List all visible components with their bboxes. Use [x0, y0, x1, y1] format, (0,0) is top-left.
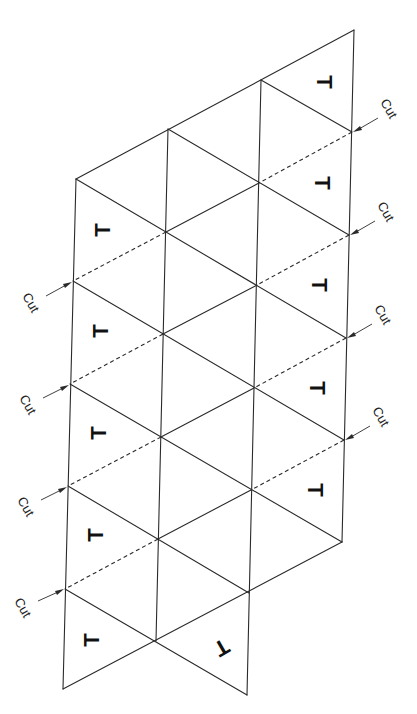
arrow-icon [353, 126, 362, 132]
glue-tab-mark: T [86, 426, 111, 440]
glue-tab-mark-bottom: T [209, 633, 234, 662]
cut-marker-right-1: Cut [353, 96, 401, 132]
glue-tab-mark: T [303, 483, 328, 497]
right-cut-markers: Cut Cut Cut Cut [345, 96, 401, 440]
cut-label: Cut [19, 290, 42, 315]
column-b-line [156, 129, 168, 641]
cut-label: Cut [11, 595, 34, 620]
right-tab-marks: T T T T T [303, 75, 337, 497]
cut-marker-left-2: Cut [16, 385, 69, 417]
diag-mid-4 [158, 490, 251, 539]
diag-mid-2 [163, 285, 257, 334]
cut-line-right-1 [259, 132, 352, 183]
cut-label: Cut [369, 404, 392, 429]
cut-line-right-2 [257, 235, 349, 285]
arrow-icon [347, 332, 356, 338]
left-tab-marks: T T T T T [79, 223, 115, 647]
glue-tab-mark: T [312, 75, 337, 89]
glue-tab-mark: T [90, 223, 115, 237]
cut-line-right-4 [251, 440, 344, 490]
cut-line-left-2 [70, 334, 163, 384]
solid-edges [63, 30, 354, 695]
cut-line-left-4 [65, 539, 158, 589]
glue-tab-mark: T [88, 324, 113, 338]
cut-marker-right-4: Cut [345, 404, 393, 440]
cut-marker-right-2: Cut [350, 199, 398, 235]
cut-label: Cut [371, 302, 394, 327]
arrow-icon [345, 434, 354, 440]
bottom-edge [63, 542, 342, 689]
glue-tab-mark: T [83, 528, 108, 542]
column-d-line [342, 30, 354, 542]
arrow-icon [58, 487, 67, 493]
arrow-icon [350, 229, 359, 235]
cut-label: Cut [14, 494, 37, 519]
diag-mid-3 [161, 388, 254, 437]
cut-marker-left-3: Cut [14, 487, 67, 519]
cut-marker-left-1: Cut [19, 282, 72, 315]
glue-tab-mark: T [310, 176, 335, 190]
left-cut-markers: Cut Cut Cut Cut [11, 282, 72, 620]
cut-marker-right-3: Cut [347, 302, 395, 338]
cut-label: Cut [374, 199, 397, 224]
arrow-icon [60, 385, 69, 391]
arrow-icon [55, 589, 64, 595]
cut-line-left-1 [73, 232, 166, 281]
cut-line-right-3 [254, 338, 346, 388]
down-diag-1 [261, 80, 352, 132]
glue-tab-mark: T [79, 633, 104, 647]
glue-tab-mark: T [305, 381, 330, 395]
arrow-icon [63, 282, 72, 288]
diag-mid-1 [166, 183, 259, 232]
glue-tab-mark: T [307, 278, 332, 292]
cut-marker-left-4: Cut [11, 589, 64, 620]
column-a-line [63, 179, 76, 689]
cut-label: Cut [16, 392, 39, 417]
cut-line-left-3 [68, 437, 161, 486]
cut-label: Cut [377, 96, 400, 121]
flexagon-net: Cut Cut Cut Cut Cut Cut [0, 0, 417, 714]
